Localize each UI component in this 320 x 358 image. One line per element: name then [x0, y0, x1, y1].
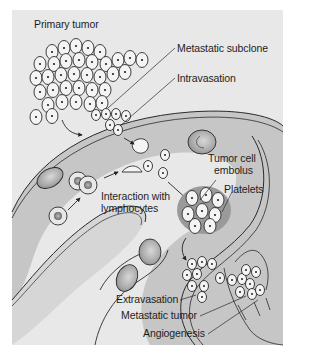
label-lymphocytes: lymphocytes [101, 203, 158, 214]
label-metastatic-subclone: Metastatic subclone [177, 43, 268, 54]
label-tumor-cell: Tumor cell [208, 153, 256, 164]
label-primary-tumor: Primary tumor [34, 19, 99, 30]
label-platelets: Platelets [224, 184, 263, 195]
label-embolus: embolus [214, 165, 253, 176]
label-metastatic-tumor: Metastatic tumor [121, 310, 197, 321]
label-intravasation: Intravasation [177, 73, 236, 84]
label-angiogenesis: Angiogenesis [143, 328, 205, 339]
label-extravasation: Extravasation [116, 294, 178, 305]
label-interaction-with: Interaction with [101, 191, 170, 202]
